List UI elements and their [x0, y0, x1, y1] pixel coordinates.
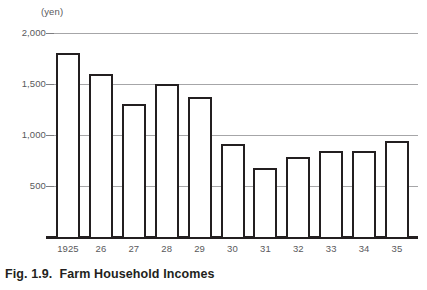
figure-farm-household-incomes: (yen) 2,0001,5001,000500 192526272829303…	[0, 0, 427, 290]
bar-32	[286, 157, 310, 237]
bar-27	[122, 104, 146, 237]
x-axis-category-labels: 192526272829303132333435	[0, 243, 427, 259]
bar-29	[188, 97, 212, 237]
x-tick-label-35: 35	[377, 243, 417, 254]
bar-35	[385, 141, 409, 237]
bar-30	[221, 144, 245, 237]
bar-28	[155, 84, 179, 237]
bar-31	[253, 168, 277, 237]
bar-1925	[56, 53, 80, 237]
plot-area: 2,0001,5001,000500 192526272829303132333…	[0, 0, 427, 245]
bar-26	[89, 74, 113, 237]
figure-caption: Fig. 1.9. Farm Household Incomes	[5, 267, 215, 281]
bars-group	[0, 0, 427, 239]
bar-33	[319, 151, 343, 237]
bar-34	[352, 151, 376, 237]
